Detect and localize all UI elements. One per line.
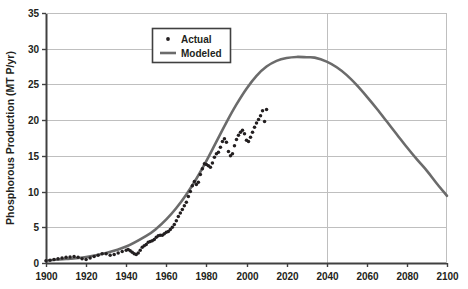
chart-container: 05101520253035 1900192019401960198020002… bbox=[0, 0, 468, 289]
x-tick-label-2080: 2080 bbox=[396, 271, 419, 282]
y-tick-label-5: 5 bbox=[33, 222, 39, 233]
x-tick-label-2040: 2040 bbox=[316, 271, 339, 282]
x-tick-label-1920: 1920 bbox=[75, 271, 98, 282]
actual-data-point bbox=[221, 140, 225, 144]
y-tick-label-10: 10 bbox=[28, 187, 40, 198]
actual-data-point bbox=[227, 150, 231, 154]
actual-data-point bbox=[251, 131, 255, 135]
actual-data-point bbox=[209, 166, 213, 170]
actual-data-point bbox=[64, 256, 68, 260]
actual-data-point bbox=[219, 146, 223, 150]
actual-data-point bbox=[213, 156, 217, 160]
actual-data-point bbox=[183, 204, 187, 208]
actual-data-point bbox=[241, 128, 245, 132]
actual-data-point bbox=[116, 251, 120, 255]
actual-data-point bbox=[108, 253, 112, 257]
actual-data-point bbox=[191, 184, 195, 188]
actual-data-point bbox=[52, 258, 56, 262]
actual-data-point bbox=[68, 255, 72, 259]
actual-data-point bbox=[120, 250, 124, 254]
actual-data-point bbox=[76, 256, 80, 260]
x-tick-label-1900: 1900 bbox=[35, 271, 58, 282]
actual-data-point bbox=[136, 251, 140, 255]
actual-data-point bbox=[100, 252, 104, 256]
actual-data-point bbox=[60, 256, 64, 260]
actual-data-point bbox=[177, 215, 181, 219]
actual-data-point bbox=[80, 257, 84, 261]
actual-data-point bbox=[255, 121, 259, 125]
actual-data-point bbox=[189, 190, 193, 194]
actual-data-point bbox=[179, 211, 183, 215]
actual-data-point bbox=[92, 255, 96, 259]
actual-data-point bbox=[253, 126, 257, 130]
phosphorous-production-chart: 05101520253035 1900192019401960198020002… bbox=[0, 0, 468, 289]
actual-data-point bbox=[249, 136, 253, 140]
y-tick-label-0: 0 bbox=[33, 258, 39, 269]
x-tick-label-2060: 2060 bbox=[356, 271, 379, 282]
y-tick-label-20: 20 bbox=[28, 115, 40, 126]
x-tick-label-1960: 1960 bbox=[155, 271, 178, 282]
actual-data-point bbox=[201, 167, 205, 171]
x-tick-label-2020: 2020 bbox=[276, 271, 299, 282]
actual-data-point bbox=[193, 180, 197, 184]
actual-data-point bbox=[231, 152, 235, 156]
y-tick-label-35: 35 bbox=[28, 8, 40, 19]
actual-data-point bbox=[48, 258, 52, 262]
actual-data-point bbox=[225, 141, 229, 145]
y-tick-label-30: 30 bbox=[28, 44, 40, 55]
actual-data-point bbox=[263, 120, 267, 124]
actual-data-point bbox=[261, 109, 265, 113]
x-tick-label-2100: 2100 bbox=[436, 271, 459, 282]
actual-data-point bbox=[44, 259, 48, 263]
actual-data-point bbox=[96, 253, 100, 257]
actual-data-point bbox=[173, 223, 177, 227]
plot-area-background bbox=[46, 13, 447, 263]
actual-data-point bbox=[243, 132, 247, 136]
x-tick-label-1980: 1980 bbox=[195, 271, 218, 282]
actual-data-point bbox=[237, 133, 241, 137]
actual-data-point bbox=[265, 108, 269, 112]
legend-marker-actual-dot-icon bbox=[166, 37, 170, 41]
actual-data-point bbox=[84, 258, 88, 262]
y-axis-title: Phosphorous Production (MT P/yr) bbox=[4, 51, 16, 225]
x-tick-label-1940: 1940 bbox=[115, 271, 138, 282]
actual-data-point bbox=[199, 173, 203, 177]
actual-data-point bbox=[211, 161, 215, 165]
actual-data-point bbox=[185, 201, 189, 205]
actual-data-point bbox=[56, 257, 60, 261]
actual-data-point bbox=[197, 181, 201, 185]
actual-data-point bbox=[259, 114, 263, 118]
actual-data-point bbox=[181, 208, 185, 212]
actual-data-point bbox=[233, 144, 237, 148]
actual-data-point bbox=[88, 256, 92, 260]
actual-data-point bbox=[257, 118, 261, 122]
x-tick-label-2000: 2000 bbox=[236, 271, 259, 282]
chart-legend: Actual Modeled bbox=[153, 29, 231, 63]
actual-data-point bbox=[138, 248, 142, 252]
legend-label-actual: Actual bbox=[181, 34, 212, 45]
actual-data-point bbox=[235, 138, 239, 142]
actual-data-point bbox=[175, 219, 179, 223]
actual-data-point bbox=[104, 252, 108, 256]
actual-data-point bbox=[223, 137, 227, 141]
actual-data-point bbox=[217, 151, 221, 155]
actual-data-point bbox=[187, 195, 191, 199]
actual-data-point bbox=[247, 140, 251, 144]
actual-data-point bbox=[112, 253, 116, 257]
actual-data-point bbox=[171, 226, 175, 230]
actual-data-point bbox=[72, 255, 76, 259]
legend-label-modeled: Modeled bbox=[181, 48, 222, 59]
y-tick-label-25: 25 bbox=[28, 79, 40, 90]
y-tick-label-15: 15 bbox=[28, 151, 40, 162]
